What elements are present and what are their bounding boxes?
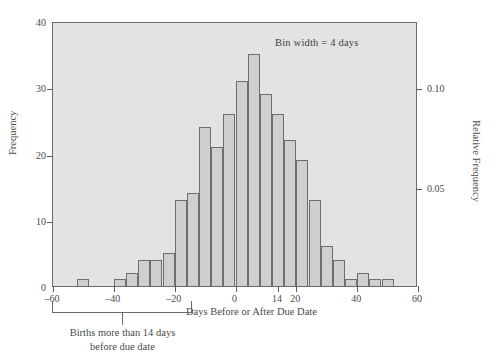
x-axis-tick — [236, 286, 237, 292]
histogram-bar — [345, 279, 357, 286]
histogram-bar — [77, 279, 89, 286]
bracket-stem — [122, 312, 123, 325]
histogram-bar — [211, 147, 223, 286]
y-axis-left-tick — [47, 156, 53, 157]
y-axis-left-tick-label: 10 — [12, 215, 46, 226]
histogram-bar — [187, 193, 199, 286]
histogram-bar — [357, 273, 369, 286]
y-axis-left-tick-label: 0 — [12, 282, 46, 293]
bracket-caption: Births more than 14 days before due date — [40, 326, 205, 354]
x-axis-tick — [175, 286, 176, 292]
x-axis-tick-label: 60 — [397, 293, 437, 304]
y-axis-left-tick-label: 40 — [12, 17, 46, 28]
left-tail-bracket — [52, 301, 192, 314]
histogram-bar — [223, 114, 235, 286]
y-axis-left-tick — [47, 89, 53, 90]
histogram-bar — [163, 253, 175, 286]
x-axis-tick — [114, 286, 115, 292]
histogram-bar — [309, 200, 321, 286]
histogram-bar — [369, 279, 381, 286]
histogram-bar — [248, 54, 260, 286]
bracket-caption-line2: before due date — [40, 340, 205, 354]
y-axis-left-tick — [47, 222, 53, 223]
bracket-caption-line1: Births more than 14 days — [40, 326, 205, 340]
x-axis-tick — [53, 286, 54, 292]
y-axis-right-title: Relative Frequency — [471, 120, 482, 202]
histogram-bar — [284, 140, 296, 286]
x-axis-tick — [278, 286, 279, 292]
x-axis-tick — [296, 286, 297, 292]
histogram-bar — [272, 114, 284, 286]
y-axis-right-tick-label: 0.05 — [427, 182, 467, 193]
histogram-bar — [236, 81, 248, 286]
histogram-bar — [260, 94, 272, 286]
x-axis-title: Days Before or After Due Date — [186, 306, 317, 317]
histogram-bar — [296, 160, 308, 286]
y-axis-right-tick — [416, 189, 422, 190]
histogram-figure: Frequency Relative Frequency Days Before… — [0, 0, 500, 359]
y-axis-left-tick-label: 30 — [12, 83, 46, 94]
x-axis-tick-label: 0 — [215, 293, 255, 304]
y-axis-right-tick-label: 0.10 — [427, 83, 467, 94]
y-axis-right-tick — [416, 89, 422, 90]
histogram-bar — [138, 260, 150, 287]
histogram-bar — [333, 260, 345, 287]
bars-layer — [53, 23, 416, 286]
histogram-bar — [199, 127, 211, 286]
x-axis-tick — [357, 286, 358, 292]
plot-area: Bin width = 4 days — [52, 22, 417, 287]
y-axis-left-tick-label: 20 — [12, 149, 46, 160]
x-axis-tick — [418, 286, 419, 292]
histogram-bar — [382, 279, 394, 286]
x-axis-tick-label: 20 — [275, 293, 315, 304]
histogram-bar — [126, 273, 138, 286]
histogram-bar — [321, 246, 333, 286]
x-axis-tick-label: 40 — [336, 293, 376, 304]
histogram-bar — [114, 279, 126, 286]
histogram-bar — [175, 200, 187, 286]
histogram-bar — [150, 260, 162, 287]
